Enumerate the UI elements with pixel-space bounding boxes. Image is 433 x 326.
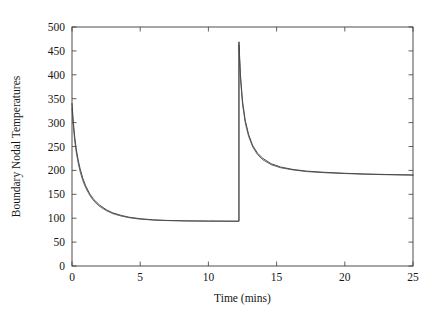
y-tick-label: 100 — [48, 212, 66, 224]
x-tick-label: 5 — [137, 271, 143, 283]
y-tick-label: 450 — [48, 45, 66, 57]
y-tick-label: 150 — [48, 188, 66, 200]
line-chart: 0501001502002503003504004505000510152025… — [0, 0, 433, 326]
x-axis-title: Time (mins) — [214, 292, 271, 305]
y-tick-label: 200 — [48, 164, 66, 176]
x-tick-label: 15 — [271, 271, 283, 283]
x-tick-label: 25 — [407, 271, 419, 283]
y-axis-title: Boundary Nodal Temperatures — [10, 75, 23, 217]
series-line — [72, 42, 413, 221]
y-tick-label: 400 — [48, 69, 66, 81]
x-tick-label: 20 — [339, 271, 351, 283]
y-tick-label: 350 — [48, 93, 66, 105]
x-tick-label: 10 — [203, 271, 215, 283]
y-tick-label: 500 — [48, 21, 66, 33]
series-line — [72, 45, 413, 221]
y-tick-label: 250 — [48, 141, 66, 153]
x-tick-label: 0 — [69, 271, 75, 283]
chart-figure: 0501001502002503003504004505000510152025… — [0, 0, 433, 326]
y-tick-label: 0 — [59, 260, 65, 272]
y-tick-label: 300 — [48, 117, 66, 129]
y-tick-label: 50 — [54, 236, 66, 248]
plot-frame — [72, 27, 413, 266]
